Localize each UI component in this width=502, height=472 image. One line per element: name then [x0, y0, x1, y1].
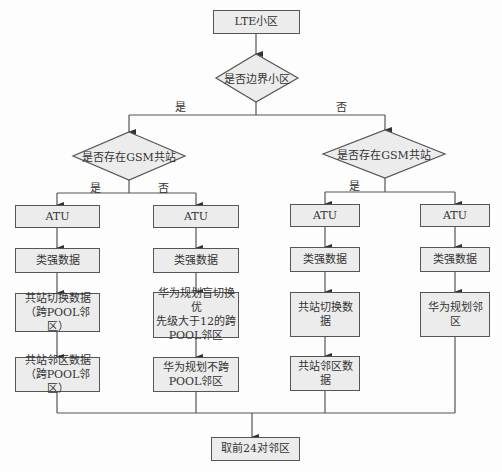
top24-neighbor-node: 取前24对邻区: [211, 437, 300, 461]
col4-atu-node: ATU: [420, 204, 490, 227]
col2-strong-data-node: 类强数据: [153, 248, 239, 273]
col2-atu-node: ATU: [153, 205, 239, 228]
col2-huawei-non-pool-node: 华为规划不跨 POOL邻区: [153, 357, 239, 392]
col2-huawei-blind-handover-node: 华为规划盲切换优 先级大于12的跨 POOL邻区: [153, 292, 239, 338]
flowchart: LTE小区 是否边界小区 是 否 是否存在GSM共站 是 否 是否存在GSM共站…: [0, 0, 502, 472]
right-gsm-yes-label: 是: [349, 177, 360, 193]
col4-strong-data-node: 类强数据: [420, 247, 490, 272]
lte-cell-node: LTE小区: [213, 10, 300, 34]
boundary-cell-decision: 是否边界小区: [216, 70, 298, 86]
right-gsm-cosite-decision: 是否存在GSM共站: [323, 146, 445, 162]
col3-cosite-handover-node: 共站切换数据: [290, 292, 360, 337]
boundary-no-label: 否: [336, 98, 347, 114]
col3-strong-data-node: 类强数据: [290, 247, 360, 272]
col1-cosite-neighbor-node: 共站邻区数据 （跨POOL邻区）: [15, 357, 100, 392]
boundary-yes-label: 是: [175, 98, 186, 114]
col1-strong-data-node: 类强数据: [15, 248, 100, 273]
left-gsm-yes-label: 是: [90, 179, 101, 195]
left-gsm-no-label: 否: [158, 179, 169, 195]
left-gsm-cosite-decision: 是否存在GSM共站: [73, 148, 185, 164]
col1-cosite-handover-node: 共站切换数据 （跨POOL邻区）: [15, 293, 100, 332]
col3-atu-node: ATU: [290, 204, 360, 227]
col1-atu-node: ATU: [15, 205, 100, 228]
col4-huawei-planned-neighbor-node: 华为规划邻区: [420, 292, 490, 337]
col3-cosite-neighbor-node: 共站邻区数据: [290, 356, 360, 391]
